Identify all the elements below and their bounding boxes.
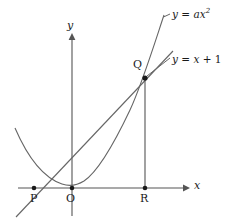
- point-label-r: R: [140, 193, 148, 204]
- x-axis-label: x: [194, 180, 200, 191]
- point-label-o: O: [66, 193, 75, 204]
- x-axis-arrow: [183, 185, 190, 192]
- line-equals: =: [181, 53, 190, 65]
- parabola-equals: =: [181, 8, 190, 20]
- point-r-dot: [143, 186, 148, 191]
- equation-label-line: y = x + 1: [172, 54, 222, 65]
- leader-line-label: [147, 58, 170, 76]
- point-q-dot: [142, 75, 147, 80]
- parabola-exponent: 2: [206, 7, 210, 15]
- point-o-dot: [70, 186, 75, 191]
- point-label-q: Q: [133, 59, 142, 70]
- point-label-p: P: [30, 193, 37, 204]
- parabola-curve: [15, 15, 164, 185]
- y-axis-arrow: [69, 33, 76, 40]
- line-const: 1: [215, 53, 222, 65]
- equation-label-parabola: y = ax2: [172, 8, 210, 19]
- y-axis-label: y: [67, 20, 73, 31]
- line-plus: +: [203, 53, 212, 65]
- line-curve: [16, 51, 173, 217]
- leader-parabola-label: [164, 14, 171, 17]
- point-p-dot: [32, 186, 37, 191]
- math-figure: x y P O R Q y = ax2 y = x + 1: [0, 0, 234, 223]
- parabola-rhs: ax: [193, 8, 205, 20]
